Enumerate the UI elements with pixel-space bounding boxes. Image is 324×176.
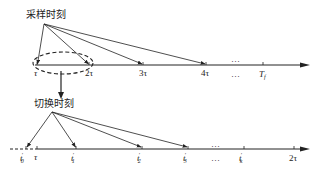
- arrow-to-tau: [38, 24, 45, 64]
- highlight-ellipse: [33, 52, 93, 74]
- ellipsis-below-axis: …: [211, 153, 220, 163]
- tick-label-2tau: 2τ: [85, 68, 94, 78]
- ellipsis-above-axis: …: [211, 139, 220, 149]
- bottom-switching-arrows: [27, 112, 187, 147]
- top-diagram: 采样时刻 τ 2τ 3τ 4τ … … Tf: [26, 8, 310, 99]
- timing-diagram: 采样时刻 τ 2τ 3τ 4τ … … Tf: [0, 0, 324, 176]
- switching-moment-label: 切换时刻: [34, 97, 74, 109]
- tick-label-2tau: 2τ: [289, 153, 298, 163]
- tick-label-t1: t′1: [71, 152, 75, 164]
- tick-label-tk: t′k: [239, 152, 243, 164]
- sampling-moment-label: 采样时刻: [26, 8, 66, 20]
- tick-label-t3: t′3: [183, 152, 187, 164]
- tick-label-tau: τ: [34, 68, 38, 78]
- tick-label-t0: t′0: [20, 152, 24, 164]
- bottom-axis-arrowhead-icon: [300, 147, 310, 152]
- tick-label-3tau: 3τ: [139, 68, 148, 78]
- ellipsis-below-axis: …: [231, 69, 240, 79]
- arrow-to-3tau: [44, 24, 142, 64]
- top-sampling-arrows: [38, 24, 206, 64]
- arrow-to-2tau: [44, 24, 89, 64]
- tick-label-tau: τ: [34, 152, 38, 162]
- ellipsis-above-axis: …: [231, 54, 240, 64]
- arrow-to-4tau: [44, 24, 205, 64]
- tick-label-tf: Tf: [259, 69, 267, 80]
- tick-label-t2: t′2: [137, 152, 141, 164]
- tick-label-4tau: 4τ: [201, 68, 210, 78]
- bottom-diagram: 切换时刻 t′0 τ t′1 t′2 t′3 … … t′k: [10, 97, 310, 164]
- top-axis-arrowhead-icon: [300, 63, 310, 68]
- arrow-to-t2: [52, 112, 141, 147]
- arrow-to-t0: [27, 112, 52, 147]
